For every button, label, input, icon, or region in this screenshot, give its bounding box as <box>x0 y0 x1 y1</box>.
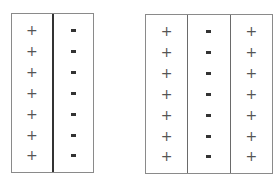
plus-sign-icon: + <box>26 86 38 100</box>
right-diagram: +++++++ +++++++ <box>145 14 273 174</box>
minus-sign-icon <box>206 149 211 163</box>
plus-sign-icon: + <box>161 45 173 59</box>
plus-sign-icon: + <box>26 23 38 37</box>
minus-sign-icon <box>71 148 76 162</box>
plus-sign-icon: + <box>26 148 38 162</box>
right-positive-column-1: +++++++ <box>146 15 187 173</box>
right-negative-column <box>187 15 229 173</box>
plus-sign-icon: + <box>245 24 257 38</box>
plus-sign-icon: + <box>161 108 173 122</box>
plus-sign-icon: + <box>245 108 257 122</box>
left-positive-column: +++++++ <box>12 14 52 172</box>
right-positive-column-2: +++++++ <box>230 15 272 173</box>
minus-sign-icon <box>206 87 211 101</box>
minus-sign-icon <box>71 107 76 121</box>
minus-sign-icon <box>71 23 76 37</box>
plus-sign-icon: + <box>245 66 257 80</box>
plus-sign-icon: + <box>161 66 173 80</box>
plus-sign-icon: + <box>26 65 38 79</box>
minus-sign-icon <box>206 24 211 38</box>
minus-sign-icon <box>206 45 211 59</box>
plus-sign-icon: + <box>26 128 38 142</box>
plus-sign-icon: + <box>161 87 173 101</box>
left-negative-column <box>52 14 94 172</box>
minus-sign-icon <box>206 66 211 80</box>
left-diagram: +++++++ <box>11 13 94 173</box>
plus-sign-icon: + <box>161 24 173 38</box>
minus-sign-icon <box>206 129 211 143</box>
plus-sign-icon: + <box>245 87 257 101</box>
plus-sign-icon: + <box>26 107 38 121</box>
plus-sign-icon: + <box>26 44 38 58</box>
minus-sign-icon <box>71 65 76 79</box>
plus-sign-icon: + <box>245 129 257 143</box>
plus-sign-icon: + <box>161 129 173 143</box>
minus-sign-icon <box>71 128 76 142</box>
plus-sign-icon: + <box>161 149 173 163</box>
minus-sign-icon <box>71 86 76 100</box>
plus-sign-icon: + <box>245 149 257 163</box>
plus-sign-icon: + <box>245 45 257 59</box>
minus-sign-icon <box>206 108 211 122</box>
minus-sign-icon <box>71 44 76 58</box>
